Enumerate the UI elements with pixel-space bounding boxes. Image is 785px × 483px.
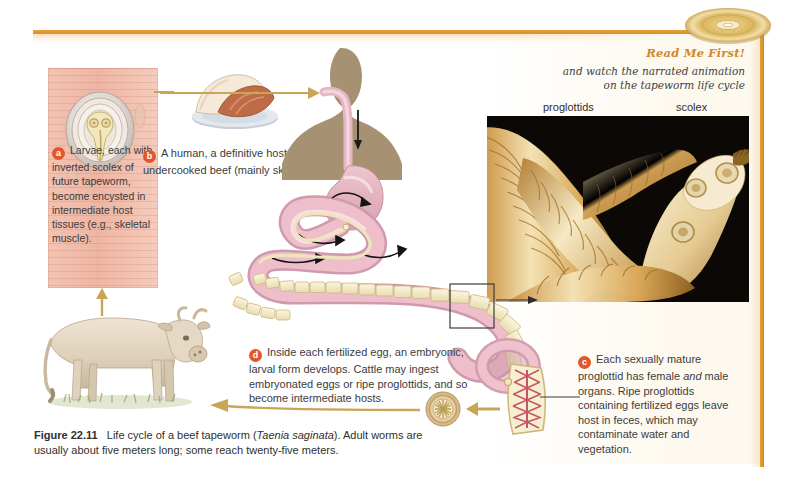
right-gold-rule-fade	[750, 30, 760, 467]
arrow-cow-to-larva	[92, 288, 112, 316]
cow-illustration	[34, 302, 212, 418]
read-me-first-body: and watch the narrated animation on the …	[540, 64, 745, 92]
step-c-bullet: c	[578, 356, 591, 369]
step-a-bullet: a	[52, 147, 65, 160]
step-d-text: Inside each fertilized egg, an embryonic…	[249, 346, 467, 404]
read-me-first-line-2: on the tapeworm life cycle	[604, 79, 745, 91]
step-d-bullet: d	[249, 349, 262, 362]
photo-label-scolex: scolex	[676, 101, 707, 113]
step-d-caption: dInside each fertilized egg, an embryoni…	[249, 345, 475, 406]
step-c-text-2: male organs. Ripe proglottids containing…	[578, 370, 728, 455]
step-b-bullet: b	[143, 150, 156, 163]
figure-page: Read Me First! and watch the narrated an…	[0, 0, 785, 483]
leader-line-proglottid	[540, 392, 580, 402]
step-c-caption: cEach sexually mature proglottid has fem…	[578, 352, 738, 457]
cd-disc-icon	[684, 2, 772, 48]
read-me-first-title: Read Me First!	[560, 46, 745, 60]
step-c-text-italic: and	[683, 370, 701, 382]
step-a-caption: aLarvae, each with inverted scolex of fu…	[52, 143, 156, 246]
right-gold-rule	[760, 30, 764, 467]
figure-species-name: Taenia saginata	[257, 429, 334, 441]
read-me-first-line-1: and watch the narrated animation	[563, 65, 745, 77]
figure-caption: Figure 22.11 Life cycle of a beef tapewo…	[34, 428, 434, 458]
figure-caption-text-1: Life cycle of a beef tapeworm (	[107, 429, 257, 441]
arrow-larva-to-beef	[154, 84, 176, 98]
step-a-text: Larvae, each with inverted scolex of fut…	[52, 144, 152, 244]
figure-number: Figure 22.11	[34, 429, 98, 441]
